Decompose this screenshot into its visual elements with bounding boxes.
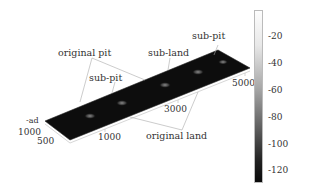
colorbar <box>254 10 263 183</box>
pit-spot <box>159 82 171 88</box>
label-sub-land: sub-land <box>148 48 189 58</box>
x-tick-3000: 3000 <box>164 105 187 114</box>
colorbar-tick-60: -60 <box>268 86 283 95</box>
label-original-pit: original pit <box>58 48 111 58</box>
label-original-land: original land <box>146 131 207 141</box>
pit-spot <box>192 69 204 75</box>
x-tick-5000: 5000 <box>232 79 255 88</box>
colorbar-tick-80: -80 <box>268 113 283 122</box>
colorbar-tick-40: -40 <box>268 59 283 68</box>
y-tick-500: 500 <box>37 137 54 146</box>
colorbar-tick-100: -100 <box>268 140 288 149</box>
colorbar-tick-120: -120 <box>268 166 288 175</box>
z-tick-partial: -ad <box>26 117 39 125</box>
pit-spot <box>116 100 128 106</box>
pit-spot <box>218 60 228 65</box>
label-sub-pit-right: sub-pit <box>192 31 225 41</box>
colorbar-tick-20: -20 <box>268 32 283 41</box>
pit-spot <box>84 113 96 119</box>
label-sub-pit-left: sub-pit <box>89 73 122 83</box>
x-tick-1000: 1000 <box>98 133 121 142</box>
